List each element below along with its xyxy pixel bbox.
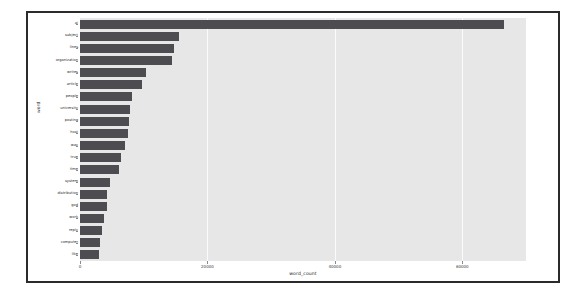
bar	[80, 250, 99, 259]
y-tick-mark	[76, 85, 78, 86]
y-tick-mark	[76, 121, 78, 122]
y-tick-mark	[76, 146, 78, 147]
y-tick-label: subject	[30, 34, 78, 38]
x-tick-label: 0	[79, 264, 82, 269]
bar	[80, 214, 104, 223]
y-axis-labels: aisubjectlinesorganizationwritesarticlep…	[28, 18, 78, 261]
y-tick-label: lines	[30, 46, 78, 50]
bar	[80, 92, 132, 101]
y-tick-label: god	[30, 204, 78, 208]
bar	[80, 178, 110, 187]
y-tick-mark	[76, 194, 78, 195]
y-tick-label: writes	[30, 71, 78, 75]
y-tick-mark	[76, 97, 78, 98]
x-tick-label: 20000	[201, 264, 214, 269]
bar	[80, 153, 121, 162]
y-tick-label: way	[30, 144, 78, 148]
y-tick-mark	[76, 36, 78, 37]
gridline	[462, 18, 463, 261]
y-tick-label: like	[30, 253, 78, 257]
x-tick-label: 40000	[328, 264, 341, 269]
y-tick-label: reply	[30, 229, 78, 233]
y-tick-label: host	[30, 131, 78, 135]
y-tick-label: system	[30, 180, 78, 184]
plot-area	[80, 18, 526, 261]
y-tick-mark	[76, 73, 78, 74]
bar	[80, 226, 102, 235]
y-tick-label: time	[30, 168, 78, 172]
y-tick-mark	[76, 218, 78, 219]
y-tick-mark	[76, 133, 78, 134]
y-tick-mark	[76, 243, 78, 244]
y-tick-mark	[76, 48, 78, 49]
y-tick-label: article	[30, 83, 78, 87]
bar	[80, 80, 142, 89]
bar	[80, 32, 179, 41]
gridline	[335, 18, 336, 261]
y-tick-label: organization	[30, 59, 78, 63]
bar	[80, 117, 129, 126]
y-tick-mark	[76, 109, 78, 110]
bar	[80, 20, 504, 29]
y-tick-label: distribution	[30, 192, 78, 196]
x-tick-label: 60000	[456, 264, 469, 269]
y-tick-mark	[76, 158, 78, 159]
y-tick-label: work	[30, 216, 78, 220]
bar	[80, 68, 146, 77]
y-tick-label: people	[30, 95, 78, 99]
y-tick-mark	[76, 206, 78, 207]
y-tick-mark	[76, 61, 78, 62]
y-tick-mark	[76, 170, 78, 171]
y-tick-mark	[76, 182, 78, 183]
y-tick-label: posting	[30, 119, 78, 123]
bar	[80, 238, 100, 247]
y-tick-label: computer	[30, 241, 78, 245]
bar	[80, 165, 119, 174]
gridline	[207, 18, 208, 261]
y-tick-mark	[76, 255, 78, 256]
y-tick-mark	[76, 24, 78, 25]
y-tick-label: true	[30, 156, 78, 160]
x-axis-ticks: 0200004000060000	[80, 261, 526, 269]
bar	[80, 105, 130, 114]
y-axis-title: word	[36, 102, 41, 113]
y-tick-mark	[76, 231, 78, 232]
y-tick-label: ai	[30, 22, 78, 26]
bar	[80, 44, 174, 53]
bar	[80, 56, 172, 65]
bar	[80, 190, 107, 199]
bar	[80, 141, 125, 150]
figure-frame: aisubjectlinesorganizationwritesarticlep…	[26, 11, 560, 283]
bar	[80, 129, 128, 138]
bar	[80, 202, 107, 211]
x-axis-title: word_count	[80, 271, 526, 276]
